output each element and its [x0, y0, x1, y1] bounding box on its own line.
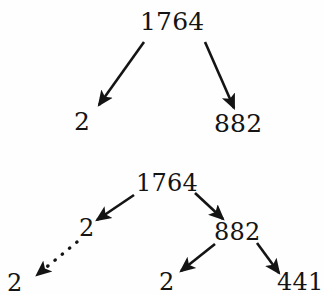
tree-edge-solid	[195, 193, 223, 219]
tree-node-2: 2	[79, 216, 94, 240]
tree-edge-solid	[181, 244, 215, 271]
tree-edge-solid	[257, 243, 279, 273]
tree-node-882: 882	[214, 220, 260, 244]
factorization-tree-figure: 176428821764228822441	[0, 0, 324, 295]
tree-edge-solid	[97, 195, 134, 220]
tree-node-2: 2	[74, 109, 90, 134]
tree-node-2: 2	[7, 271, 22, 295]
tree-edge-dotted	[37, 242, 77, 275]
tree-edges-layer	[0, 0, 324, 295]
tree-node-1764: 1764	[136, 171, 198, 195]
tree-node-2: 2	[159, 270, 174, 294]
tree-edge-solid	[99, 42, 144, 105]
tree-node-441: 441	[277, 270, 323, 294]
tree-node-1764: 1764	[140, 9, 204, 34]
tree-edge-solid	[205, 42, 234, 108]
tree-node-882: 882	[214, 111, 262, 136]
